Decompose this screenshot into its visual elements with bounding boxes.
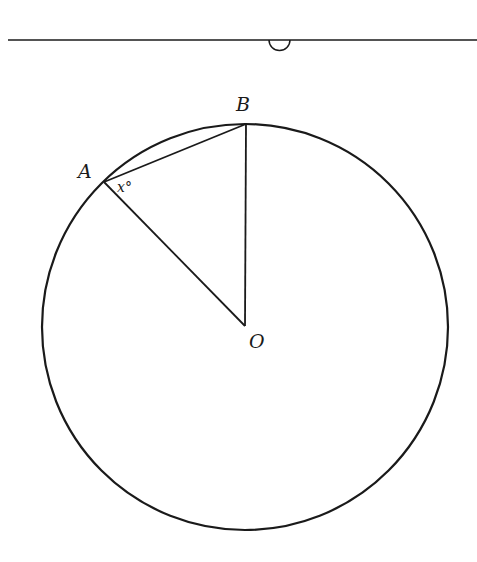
label-b: B [235, 93, 250, 115]
semicircle-notch [269, 40, 290, 50]
label-o: O [249, 330, 265, 352]
radius-oa [104, 182, 245, 326]
label-a: A [76, 160, 92, 182]
angle-label-x: x° [117, 179, 132, 195]
chord-ab [104, 124, 246, 182]
radius-ob [245, 124, 246, 326]
geometry-diagram: A B O x° [0, 0, 477, 562]
